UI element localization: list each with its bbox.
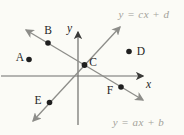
point-d-label: D	[137, 46, 145, 58]
point-d-dot	[126, 49, 132, 55]
x-axis-label: x	[146, 79, 151, 91]
point-f-dot	[118, 84, 124, 90]
equation-rising-line: y = cx + d	[119, 9, 170, 20]
point-a-dot	[26, 57, 32, 63]
y-axis-label: y	[67, 23, 72, 35]
point-b-dot	[45, 40, 51, 46]
point-f-label: F	[107, 85, 113, 97]
point-e-label: E	[34, 95, 41, 107]
point-c-label: C	[89, 57, 97, 69]
point-c-dot	[82, 62, 88, 68]
point-e-dot	[47, 100, 53, 106]
equation-falling-line: y = ax + b	[113, 116, 165, 127]
point-a-label: A	[16, 52, 24, 64]
point-b-label: B	[44, 25, 52, 37]
coordinate-plane-figure: A B C D E F y x y = cx + d y = ax + b	[0, 0, 184, 135]
